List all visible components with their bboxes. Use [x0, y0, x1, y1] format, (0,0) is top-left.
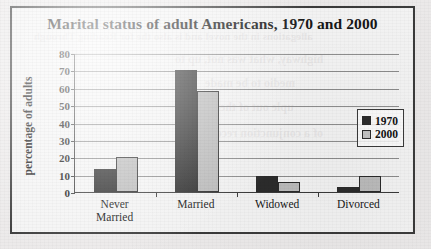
y-axis-tick-30: 30: [59, 135, 70, 147]
bar-group-never-married: [75, 54, 156, 192]
x-axis-label-never-married: NeverMarried: [74, 198, 155, 224]
bar-group-married: [156, 54, 237, 192]
legend-item-2000[interactable]: 2000: [362, 128, 398, 140]
legend-item-1970[interactable]: 1970: [362, 115, 398, 127]
y-axis-tick-60: 60: [59, 83, 70, 95]
x-axis-label-divorced: Divorced: [318, 198, 399, 224]
x-axis-label-married: Married: [155, 198, 236, 224]
y-axis-title-label: percentage of adults: [22, 77, 34, 176]
y-axis-tick-20: 20: [59, 152, 70, 164]
y-axis-title: percentage of adults: [19, 56, 37, 196]
x-axis-label-line: Never: [74, 198, 155, 211]
chart-frame: Marital status of adult Americans, 1970 …: [10, 6, 415, 234]
bar-married-1970[interactable]: [175, 70, 197, 192]
y-axis-tick-80: 80: [59, 48, 70, 60]
y-axis-tick-40: 40: [59, 118, 70, 130]
legend-swatch-1970: [362, 116, 371, 125]
bar-groups: [75, 54, 399, 192]
x-axis-label-widowed: Widowed: [237, 198, 318, 224]
x-axis-label-line: Divorced: [318, 198, 399, 211]
chart-legend: 19702000: [357, 109, 404, 147]
x-axis-tick-3: [318, 192, 319, 197]
y-axis-tick-0: 0: [65, 187, 71, 199]
plot-area: [74, 54, 399, 193]
legend-label-2000: 2000: [375, 128, 398, 140]
x-axis-category-labels: NeverMarriedMarriedWidowedDivorced: [74, 198, 399, 224]
x-axis-ticks: [75, 188, 399, 193]
x-axis-label-line: Married: [155, 198, 236, 211]
y-axis-tick-labels: 80706050403020100: [44, 54, 70, 193]
chart-title: Marital status of adult Americans, 1970 …: [12, 15, 413, 33]
bar-married-2000[interactable]: [197, 91, 219, 192]
x-axis-tick-1: [156, 192, 157, 197]
legend-label-1970: 1970: [375, 115, 398, 127]
bar-never-married-2000[interactable]: [116, 157, 138, 192]
x-axis-label-line: Married: [74, 211, 155, 224]
plot-area-wrapper: 80706050403020100: [74, 54, 399, 193]
y-axis-tick-50: 50: [59, 100, 70, 112]
y-axis-tick-70: 70: [59, 65, 70, 77]
legend-swatch-2000: [362, 130, 371, 139]
x-axis-label-line: Widowed: [237, 198, 318, 211]
bar-group-widowed: [237, 54, 318, 192]
y-axis-tick-10: 10: [59, 170, 70, 182]
x-axis-tick-2: [237, 192, 238, 197]
